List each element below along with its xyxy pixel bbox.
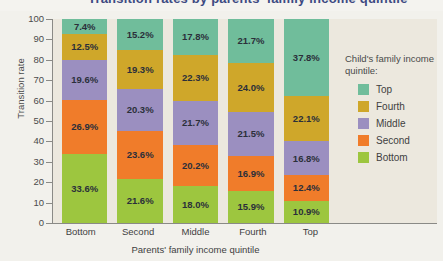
legend-swatch-icon [358,84,369,95]
y-tick-mark [46,203,52,204]
legend-item[interactable]: Bottom [345,152,441,163]
y-tick-mark [46,182,52,183]
segment-top: 7.4% [62,19,107,34]
segment-second: 23.6% [117,131,162,179]
x-tick-label: Second [109,226,166,237]
y-tick-mark [46,121,52,122]
legend-item-label: Top [376,84,392,95]
bar-column-bottom[interactable]: 7.4% 12.5% 19.6% 26.9% 33.6% [62,19,107,223]
segment-second: 16.9% [228,156,273,190]
segment-middle: 21.5% [228,112,273,156]
segment-fourth: 22.3% [173,55,218,100]
legend-item-label: Middle [376,118,405,129]
legend-heading: Child's family income quintile: [345,53,441,77]
legend-swatch-icon [358,101,369,112]
x-axis-line [52,223,437,224]
y-tick-label: 70 [4,74,44,85]
segment-fourth: 22.1% [284,96,329,141]
y-tick-label: 80 [4,54,44,65]
y-tick-label: 0 [4,217,44,228]
x-axis-title: Parents' family income quintile [52,244,339,255]
bar-column-fourth[interactable]: 21.7% 24.0% 21.5% 16.9% 15.9% [228,19,273,223]
y-tick-label: 60 [4,95,44,106]
x-axis-tick-labels: BottomSecondMiddleFourthTop [52,226,339,237]
segment-middle: 16.8% [284,141,329,175]
segment-top: 15.2% [117,19,162,50]
segment-middle: 19.6% [62,60,107,100]
bar-column-middle[interactable]: 17.8% 22.3% 21.7% 20.2% 18.0% [173,19,218,223]
legend-item-label: Second [376,135,410,146]
segment-middle: 20.3% [117,89,162,130]
y-tick-mark [46,101,52,102]
segment-fourth: 19.3% [117,50,162,89]
y-tick-label: 90 [4,33,44,44]
segment-second: 12.4% [284,175,329,200]
y-tick-label: 100 [4,13,44,24]
segment-top: 37.8% [284,19,329,96]
legend-item[interactable]: Fourth [345,101,441,112]
segment-fourth: 12.5% [62,34,107,60]
legend-swatch-icon [358,135,369,146]
legend: Child's family income quintile: TopFourt… [345,53,441,169]
segment-second: 26.9% [62,100,107,155]
segment-bottom: 21.6% [117,179,162,223]
x-tick-label: Middle [167,226,224,237]
segment-top: 21.7% [228,19,273,63]
segment-bottom: 15.9% [228,191,273,223]
legend-item[interactable]: Top [345,84,441,95]
y-tick-mark [46,60,52,61]
y-tick-label: 30 [4,156,44,167]
x-tick-label: Top [282,226,339,237]
segment-middle: 21.7% [173,101,218,145]
legend-item-label: Fourth [376,101,405,112]
bar-column-second[interactable]: 15.2% 19.3% 20.3% 23.6% 21.6% [117,19,162,223]
segment-second: 20.2% [173,145,218,186]
y-tick-label: 20 [4,176,44,187]
legend-swatch-icon [358,118,369,129]
segment-top: 17.8% [173,19,218,55]
legend-item[interactable]: Middle [345,118,441,129]
legend-item-label: Bottom [376,152,408,163]
segment-bottom: 18.0% [173,186,218,223]
segment-bottom: 33.6% [62,154,107,223]
segment-fourth: 24.0% [228,63,273,112]
x-tick-label: Fourth [224,226,281,237]
segment-bottom: 10.9% [284,201,329,223]
y-axis-line [52,19,53,223]
y-tick-label: 50 [4,115,44,126]
stacked-bar-chart: Transition rate 1009080706050403020100 7… [0,11,443,261]
chart-title-strip: Transition rates by parents' family inco… [0,0,443,11]
y-tick-mark [46,141,52,142]
legend-item[interactable]: Second [345,135,441,146]
y-tick-mark [46,19,52,20]
y-tick-label: 40 [4,135,44,146]
y-tick-mark [46,39,52,40]
bars-container: 7.4% 12.5% 19.6% 26.9% 33.6% 15.2% 19.3%… [57,19,334,223]
legend-swatch-icon [358,152,369,163]
x-tick-label: Bottom [52,226,109,237]
chart-title: Transition rates by parents' family inco… [88,0,408,6]
bar-column-top[interactable]: 37.8% 22.1% 16.8% 12.4% 10.9% [284,19,329,223]
y-tick-mark [46,80,52,81]
legend-rows: TopFourthMiddleSecondBottom [345,84,441,163]
y-tick-label: 10 [4,197,44,208]
y-tick-mark [46,162,52,163]
